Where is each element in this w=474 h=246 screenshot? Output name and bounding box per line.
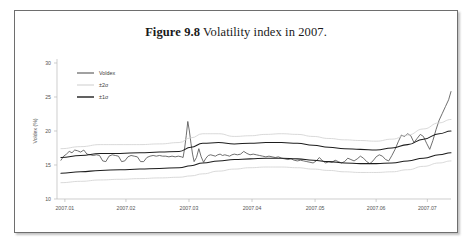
series-line-voldex xyxy=(61,92,451,164)
x-tick-label: 2007.05 xyxy=(306,205,325,211)
series-line--2-lower xyxy=(61,161,451,183)
x-tick-label: 2007.04 xyxy=(243,205,262,211)
y-tick-label: 10 xyxy=(45,196,51,202)
legend-label-voldex: Voldex xyxy=(99,70,115,76)
series-line--2-upper xyxy=(61,119,451,148)
x-tick-label: 2007.06 xyxy=(367,205,386,211)
series-line--1-lower xyxy=(61,153,451,173)
chart-plot-area: 1015202530Voldex (%)2007.012007.022007.0… xyxy=(15,51,459,231)
figure-caption-label: Figure 9.8 xyxy=(145,25,200,39)
legend-label-band1: ±1σ xyxy=(99,94,109,100)
figure-caption: Figure 9.8 Volatility index in 2007. xyxy=(15,25,457,40)
x-tick-label: 2007.03 xyxy=(180,205,199,211)
figure-caption-text: Volatility index in 2007. xyxy=(200,25,327,39)
volatility-index-chart: 1015202530Voldex (%)2007.012007.022007.0… xyxy=(15,51,459,231)
x-tick-label: 2007.01 xyxy=(55,205,74,211)
y-tick-label: 30 xyxy=(45,60,51,66)
y-tick-label: 25 xyxy=(45,94,51,100)
legend-label-band2: ±2σ xyxy=(99,82,109,88)
y-tick-label: 15 xyxy=(45,162,51,168)
x-tick-label: 2007.02 xyxy=(117,205,136,211)
figure-frame: Figure 9.8 Volatility index in 2007. 101… xyxy=(14,10,458,233)
y-axis-title: Voldex (%) xyxy=(32,118,38,143)
y-tick-label: 20 xyxy=(45,128,51,134)
x-tick-label: 2007.07 xyxy=(418,205,437,211)
